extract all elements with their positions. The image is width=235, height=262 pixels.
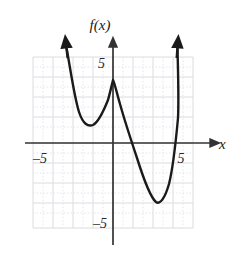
labels-group: f(x) x –5 5 5 –5 [32,17,226,231]
x-tick-label-positive-five: 5 [178,151,185,166]
x-tick-label-negative-five: –5 [32,151,47,166]
x-axis-label: x [218,136,226,152]
curve-right-arrow-icon [177,46,178,58]
curve-left-arrow-icon [66,46,67,58]
y-tick-label-negative-five: –5 [92,216,107,231]
graph-figure: f(x) x –5 5 5 –5 [0,0,235,262]
y-tick-label-positive-five: 5 [98,56,105,71]
graph-canvas: f(x) x –5 5 5 –5 [0,0,235,262]
function-curve-group [66,46,178,203]
function-label: f(x) [90,17,111,34]
